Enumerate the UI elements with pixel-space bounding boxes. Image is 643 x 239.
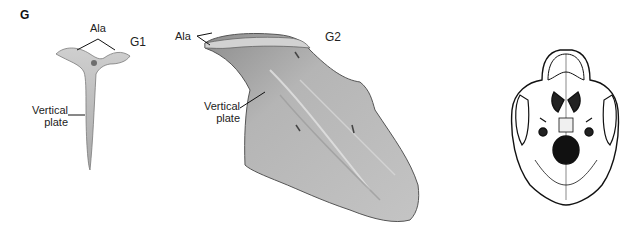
g1-plate-label-line2: plate bbox=[26, 116, 68, 128]
vomer-figure: G bbox=[0, 0, 643, 239]
g1-ala-label: Ala bbox=[90, 22, 106, 34]
g2-ala-label: Ala bbox=[175, 30, 191, 42]
g1-ala-leader bbox=[77, 39, 115, 50]
g2-ala-leader-top bbox=[197, 33, 212, 36]
g2-ala-leader-bottom bbox=[197, 36, 210, 45]
g1-vertical-plate-label: Vertical plate bbox=[26, 104, 68, 128]
g2-vertical-plate-label: Vertical plate bbox=[200, 100, 240, 124]
illustration-canvas bbox=[0, 0, 643, 239]
g2-vertical-label-line1: Vertical bbox=[200, 100, 240, 112]
g1-vertical-label-line1: Vertical bbox=[26, 104, 68, 116]
g2-plate-label-line2: plate bbox=[200, 112, 240, 124]
skull-inferior-view bbox=[512, 50, 619, 205]
g2-bone bbox=[205, 33, 419, 221]
g1-title: G1 bbox=[130, 35, 146, 49]
g2-title: G2 bbox=[325, 30, 341, 44]
